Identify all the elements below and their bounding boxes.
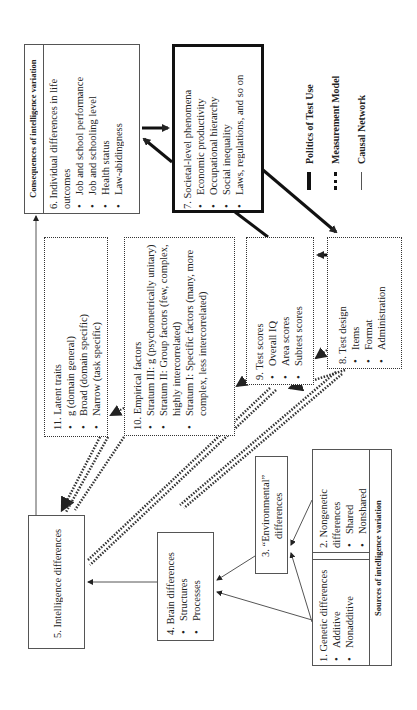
box-4-title: 4. Brain differences [164,539,177,635]
list-item: Health status [99,49,112,209]
list-item: g (domain general) [64,244,77,430]
box-3-environmental-differences: 3. “Environmental” differences [255,456,288,574]
list-item: Nonshared [356,454,369,548]
box-7-title: 7. Societal-level phenomena [181,51,194,209]
list-item: Broad (domain specific) [77,244,90,430]
box-1-genetic-differences: 1. Genetic differences Additive Nonaddit… [317,564,367,662]
list-item: Shared [343,454,356,548]
list-item: Social inequality [220,51,233,209]
legend-label: Politics of Test Use [304,84,315,164]
box-4-brain-differences: 4. Brain differences Structures Processe… [157,532,214,641]
consequences-header: Consequences of intelligence variation [27,49,41,209]
list-item: Administration [375,244,388,364]
box-10-empirical-factors: 10. Empirical factors Stratum III: g (ps… [124,237,235,436]
box-8-title: 8. Test design [336,244,349,364]
box-8-test-design: 8. Test design Items Format Administrati… [327,237,402,369]
box-3-title: 3. “Environmental” differences [259,463,286,569]
legend-label: Measurement Model [330,76,341,164]
list-item: Job and school performance [73,49,86,209]
box-11-latent-traits: 11. Latent traits g (domain general) Bro… [44,237,108,437]
sources-header: Sources of intelligence variation [372,454,390,662]
list-item: Narrow (task specific) [90,244,103,430]
box-2-nongenetic-differences: 2. Nongenetic differences Shared Nonshar… [317,454,367,548]
box-7-societal-phenomena: 7. Societal-level phenomena Economic pro… [172,44,264,213]
list-item: Overall IQ [266,244,279,380]
box2-bottom-border [313,552,370,553]
box-6-individual-outcomes: 6. Individual differences in life outcom… [47,49,137,209]
list-item: Stratum III: g (psychometrically unitary… [144,244,157,430]
sources-panel: 2. Nongenetic differences Shared Nonshar… [312,449,392,666]
thick-line-swatch [308,172,312,190]
box-6-title: 6. Individual differences in life outcom… [47,49,73,209]
list-item: Law-abidingness [112,49,125,209]
list-item: Job and schooling level [86,49,99,209]
dotted-line-swatch [334,172,337,190]
list-item: Items [349,244,362,364]
list-item: Nonadditive [343,564,356,662]
legend-causal: Causal Network [356,86,367,190]
box-1-title: 1. Genetic differences [317,564,330,662]
header-divider [369,450,370,665]
list-item: Stratum II: Group factors (few, complex,… [157,244,183,430]
list-item: Processes [190,539,203,635]
box-11-title: 11. Latent traits [51,244,64,430]
list-item: Additive [330,564,343,662]
box-9-title: 9. Test scores [253,244,266,380]
box-9-test-scores: 9. Test scores Overall IQ Area scores Su… [246,237,314,385]
box-2-title: 2. Nongenetic differences [317,454,343,548]
list-item: Stratum I: Specific factors (many, more … [183,244,209,430]
list-item: Structures [177,539,190,635]
consequences-panel: Consequences of intelligence variation 6… [24,44,140,214]
list-item: Area scores [279,244,292,380]
box-5-intelligence-differences: 5. Intelligence differences [28,515,85,649]
header-divider [43,45,44,213]
list-item: Economic productivity [194,51,207,209]
list-item: Occupational hierarchy [207,51,220,209]
legend-politics: Politics of Test Use [304,70,315,190]
legend-label: Causal Network [356,95,367,164]
thin-line-swatch [361,172,362,190]
list-item: Format [362,244,375,364]
box1-top-border [313,559,370,560]
box-5-title: 5. Intelligence differences [33,522,81,644]
legend-measurement: Measurement Model [330,62,341,190]
list-item: Subtest scores [292,244,305,380]
box-10-title: 10. Empirical factors [131,244,144,430]
list-item: Laws, regulations, and so on [233,51,246,209]
